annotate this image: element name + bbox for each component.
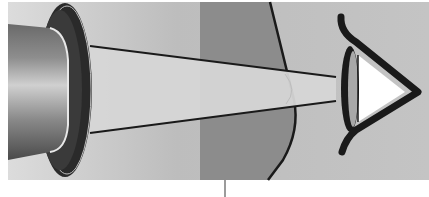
diagram-figure	[0, 0, 429, 197]
eye-lens	[348, 51, 358, 127]
light-source-lamp	[8, 24, 68, 160]
diagram-canvas	[0, 0, 429, 197]
